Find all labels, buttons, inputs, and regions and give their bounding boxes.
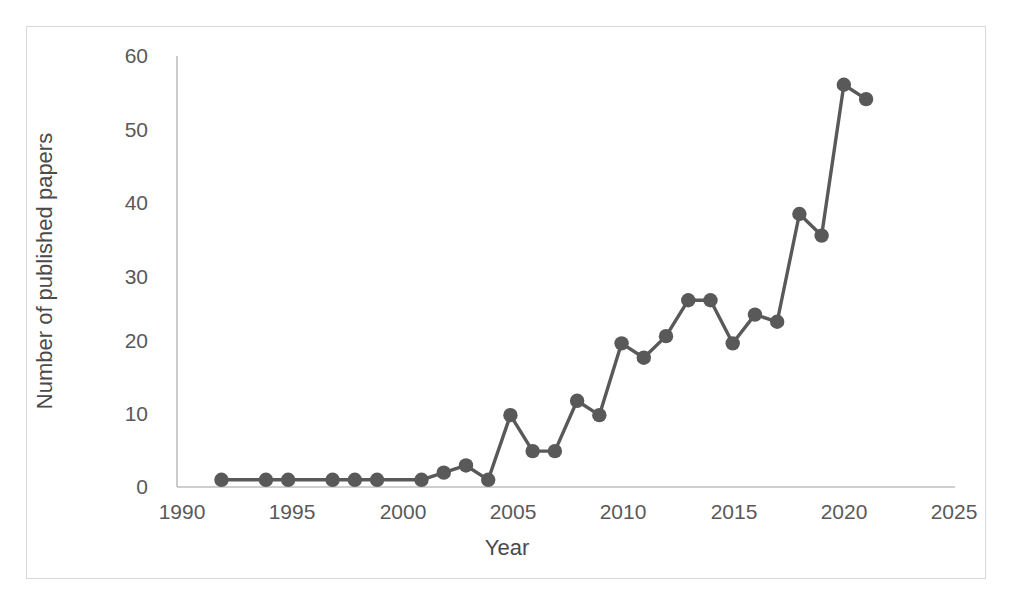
data-point: [592, 408, 606, 422]
data-point: [259, 473, 273, 487]
data-point: [281, 473, 295, 487]
data-point: [681, 293, 695, 307]
data-point: [570, 394, 584, 408]
data-point: [459, 458, 473, 472]
data-point: [792, 207, 806, 221]
data-point: [859, 92, 873, 106]
data-point: [748, 307, 762, 321]
data-point: [503, 408, 517, 422]
data-point: [637, 351, 651, 365]
data-point: [814, 228, 828, 242]
data-point: [726, 336, 740, 350]
data-point: [837, 78, 851, 92]
data-point: [437, 465, 451, 479]
data-point: [414, 473, 428, 487]
data-point: [348, 473, 362, 487]
data-point: [703, 293, 717, 307]
data-point: [548, 444, 562, 458]
data-point: [614, 336, 628, 350]
data-markers: [214, 78, 873, 487]
data-line: [221, 85, 866, 480]
data-point: [481, 473, 495, 487]
chart-figure: 60 50 40 30 20 10 0 1990 1995 2000 2005 …: [0, 0, 1014, 613]
data-point: [659, 329, 673, 343]
data-point: [214, 473, 228, 487]
data-point: [325, 473, 339, 487]
data-point: [770, 315, 784, 329]
plot-area: [0, 0, 1014, 613]
data-point: [370, 473, 384, 487]
data-point: [525, 444, 539, 458]
